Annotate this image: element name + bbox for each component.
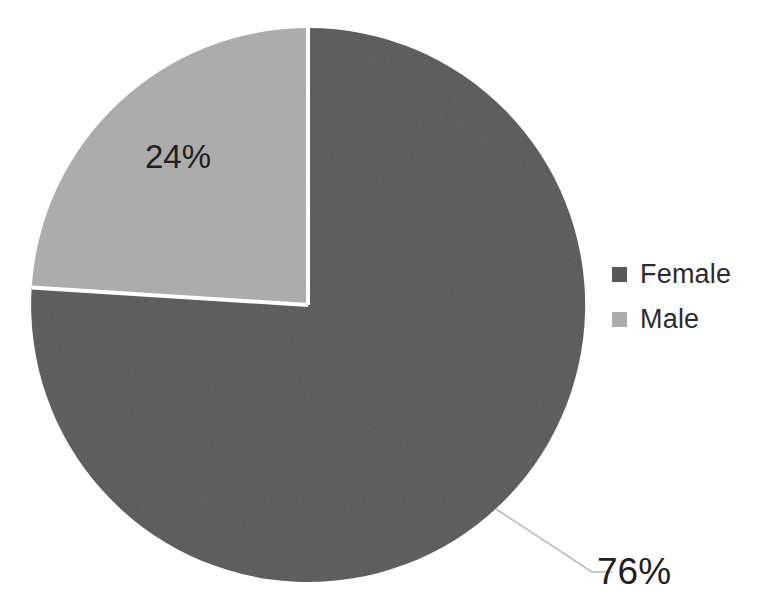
leader-line-female: [496, 509, 612, 572]
legend-label-male: Male: [640, 306, 699, 333]
data-label-male: 24%: [145, 138, 211, 175]
legend-swatch-male-icon: [612, 312, 627, 327]
legend-swatch-female-icon: [612, 267, 627, 282]
pie-chart: 24% 76% Female Male: [0, 0, 768, 605]
legend-label-female: Female: [640, 261, 731, 288]
legend-item-female[interactable]: Female: [612, 252, 762, 297]
data-label-female: 76%: [597, 551, 671, 592]
chart-legend: Female Male: [612, 252, 762, 342]
legend-item-male[interactable]: Male: [612, 297, 762, 342]
